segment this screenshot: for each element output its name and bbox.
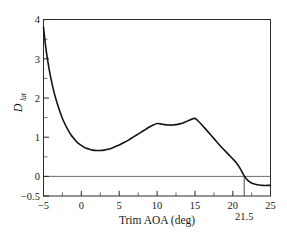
x-tick-label: 0 — [79, 200, 84, 211]
y-tick-label: 3 — [35, 54, 40, 65]
x-tick-label: −5 — [38, 200, 49, 211]
y-tick-label: 4 — [35, 14, 41, 25]
x-axis-title: Trim AOA (deg) — [119, 214, 195, 227]
y-axis-title-sub: lat — [19, 92, 28, 101]
chart-figure: 4 3 2 1 0 −0.5 −5 0 5 10 15 20 25 Trim A… — [0, 0, 287, 240]
x-tick-label: 15 — [190, 200, 201, 211]
y-tick-label: 0 — [35, 171, 40, 182]
y-tick-label: 2 — [35, 93, 40, 104]
x-tick-label: 10 — [152, 200, 163, 211]
y-tick-label: 1 — [35, 132, 40, 143]
annotation-label-21p5: 21.5 — [235, 211, 253, 222]
y-axis-title-main: D — [11, 103, 25, 113]
x-tick-label: 25 — [265, 200, 276, 211]
x-tick-label: 20 — [228, 200, 239, 211]
x-tick-label: 5 — [117, 200, 122, 211]
